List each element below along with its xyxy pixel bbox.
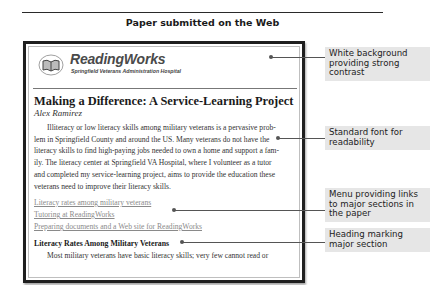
intro-paragraph: Illiteracy or low literacy skills among … [34,122,300,192]
section-heading: Literacy Rates Among Military Veterans [34,239,169,248]
web-page-frame: ReadingWorks Springfield Veterans Admini… [23,41,305,283]
brand-subtitle: Springfield Veterans Administration Hosp… [71,68,181,74]
paragraph-line: lem in Springfield County and around the… [34,134,300,146]
paragraph-line: literacy skills to find high-paying jobs… [34,145,300,157]
callout-leader [272,57,325,58]
callout-leader [175,210,325,211]
brand-name: ReadingWorks [70,51,165,67]
open-book-icon [38,54,64,76]
paragraph-line: ily. The literacy center at Springfield … [34,157,300,169]
paragraph-line: and completed my service-learning projec… [34,169,300,181]
figure-title: Paper submitted on the Web [22,17,383,28]
callout-leader [279,138,325,139]
header-divider [33,88,297,89]
callout-leader [183,242,325,243]
paragraph-line: veterans need to improve their literacy … [34,181,300,193]
callout-standard-font: Standard font for readability [325,126,430,150]
menu-link-literacy-rates[interactable]: Literacy rates among military veterans [34,197,202,209]
menu-link-preparing-documents[interactable]: Preparing documents and a Web site for R… [34,221,202,233]
callout-white-background: White background providing strong contra… [325,47,430,81]
callout-menu-links: Menu providing links to major sections i… [325,188,430,222]
section-text: Most military veterans have basic litera… [47,251,268,260]
paper-title: Making a Difference: A Service-Learning … [34,94,293,109]
author-name: Alex Ramirez [34,108,82,118]
top-rule [22,12,383,13]
paragraph-line: Illiteracy or low literacy skills among … [34,122,300,134]
callout-section-heading: Heading marking major section [325,228,430,252]
section-menu: Literacy rates among military veterans T… [34,197,202,233]
